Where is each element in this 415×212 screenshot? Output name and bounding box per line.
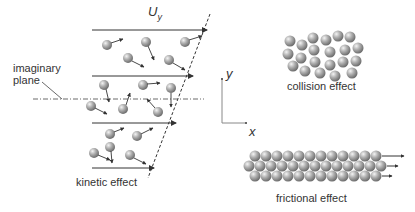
velocity-subscript: y: [157, 12, 162, 22]
friction-row-2: [244, 161, 399, 172]
plane-label-line2: plane: [13, 74, 61, 86]
kinetic-effect-label: kinetic effect: [76, 176, 137, 188]
friction-row-3: [250, 171, 393, 182]
velocity-symbol: U: [148, 4, 157, 19]
imaginary-plane-label: imaginary plane: [13, 62, 61, 86]
diagram-canvas: Uy imaginary plane kinetic effect collis…: [0, 0, 415, 212]
viscosity-mechanisms-diagram: [0, 0, 415, 212]
collision-effect-label: collision effect: [287, 80, 356, 92]
velocity-label: Uy: [148, 4, 162, 22]
y-axis-label: y: [226, 66, 233, 81]
kinetic-molecules: [86, 36, 202, 164]
velocity-gradient-line: [148, 14, 210, 178]
frictional-layers: [244, 151, 405, 182]
collision-cluster: [283, 31, 364, 82]
friction-row-1: [250, 151, 405, 162]
coordinate-axes: [221, 78, 247, 124]
frictional-effect-label: frictional effect: [276, 192, 347, 204]
plane-label-line1: imaginary: [13, 62, 61, 74]
x-axis-label: x: [249, 124, 256, 139]
